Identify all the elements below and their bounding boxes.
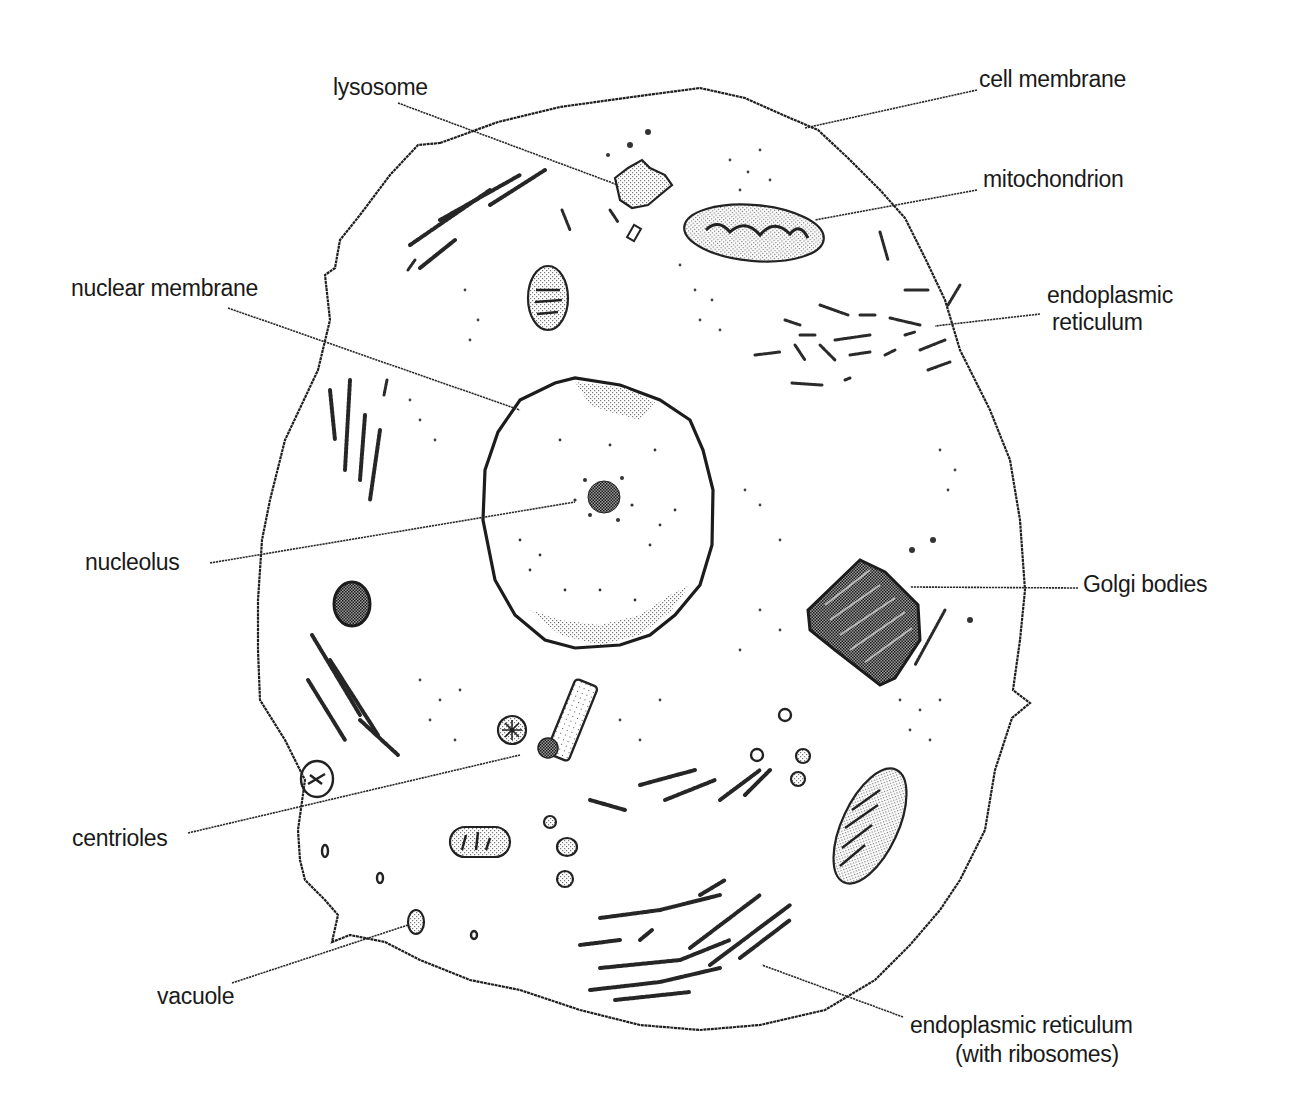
leader-nucleolus: [210, 502, 575, 563]
centrioles: [498, 678, 598, 761]
label-lysosome: lysosome: [333, 74, 428, 100]
smooth-er-middle: [590, 770, 770, 810]
nuclear-membrane-shading-top: [575, 382, 655, 420]
cell-diagram-canvas: lysosome cell membrane mitochondrion end…: [0, 0, 1296, 1118]
leader-rough-er: [762, 965, 903, 1017]
leader-golgi-bodies: [910, 587, 1078, 588]
chromatin-speckles: [519, 439, 677, 602]
leader-nuclear-membrane: [228, 308, 520, 410]
er-strands-lower-left: [308, 635, 398, 755]
vacuole: [408, 910, 424, 934]
cell-membrane-outline: [258, 88, 1030, 1030]
label-endoplasmic-reticulum-1: endoplasmic: [1047, 282, 1173, 308]
rough-er: [580, 880, 790, 1000]
leader-cell-membrane: [805, 90, 977, 128]
label-centrioles: centrioles: [72, 825, 167, 851]
mitochondrion-lower-right: [818, 758, 921, 894]
mitochondrion-upper: [682, 199, 826, 267]
leader-centrioles: [188, 755, 520, 833]
mitochondrion-lower-middle: [450, 827, 510, 857]
nucleus: [483, 378, 713, 648]
golgi-bodies: [808, 537, 973, 685]
label-golgi-bodies: Golgi bodies: [1083, 571, 1207, 597]
nuclear-membrane: [483, 378, 713, 648]
label-endoplasmic-reticulum-2: reticulum: [1052, 309, 1143, 335]
label-nuclear-membrane: nuclear membrane: [71, 275, 258, 301]
label-mitochondrion: mitochondrion: [983, 166, 1124, 192]
mitochondrion-round-lower-left: [301, 761, 333, 797]
cell-diagram: lysosome cell membrane mitochondrion end…: [0, 0, 1296, 1118]
nuclear-membrane-shading-bottom: [530, 585, 690, 645]
label-cell-membrane: cell membrane: [979, 66, 1126, 92]
labels: lysosome cell membrane mitochondrion end…: [71, 66, 1207, 1067]
leader-lines: [188, 90, 1078, 1017]
label-rough-er-2: (with ribosomes): [955, 1041, 1119, 1067]
er-strands-upper-left: [408, 170, 570, 270]
mitochondrion-round-upper: [528, 266, 568, 330]
label-nucleolus: nucleolus: [85, 549, 179, 575]
mitochondrion-round-left: [334, 582, 370, 626]
label-vacuole: vacuole: [157, 983, 234, 1009]
leader-mitochondrion: [815, 190, 977, 220]
er-strands-left: [330, 380, 387, 500]
label-rough-er-1: endoplasmic reticulum: [910, 1012, 1133, 1038]
nucleolus: [588, 481, 620, 513]
leader-vacuole: [232, 925, 408, 983]
